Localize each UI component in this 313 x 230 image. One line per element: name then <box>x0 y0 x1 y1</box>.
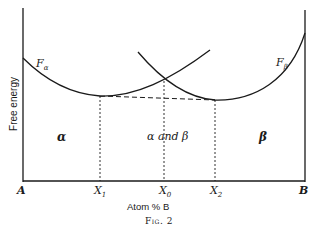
f-beta-sub: β <box>284 63 288 71</box>
figure-caption: Fig. 2 <box>145 217 173 226</box>
y-axis-label: Free energy <box>9 74 19 134</box>
tick-a: A <box>17 185 26 196</box>
tick-x2-sub: 2 <box>218 191 222 199</box>
tick-x0-letter: X <box>159 184 167 197</box>
tick-x1-sub: 1 <box>102 191 106 199</box>
f-alpha-letter: F <box>36 57 44 70</box>
x-axis-label: Atom % B <box>127 202 169 212</box>
tick-x1: X1 <box>94 185 106 199</box>
tick-x1-letter: X <box>94 184 102 197</box>
tick-x0-sub: 0 <box>167 191 171 199</box>
region-alpha: α <box>57 131 66 143</box>
phase-diagram <box>0 0 313 230</box>
f-beta-letter: F <box>276 56 284 69</box>
f-beta-label: Fβ <box>276 57 288 71</box>
f-alpha-label: Fα <box>36 58 48 72</box>
tick-x2: X2 <box>210 185 222 199</box>
tick-b: B <box>299 185 308 196</box>
tick-x2-letter: X <box>210 184 218 197</box>
region-alpha-beta: α and β <box>147 131 188 142</box>
f-alpha-curve <box>23 50 210 96</box>
f-alpha-sub: α <box>44 64 49 72</box>
tick-x0: X0 <box>159 185 171 199</box>
region-beta: β <box>259 131 267 143</box>
